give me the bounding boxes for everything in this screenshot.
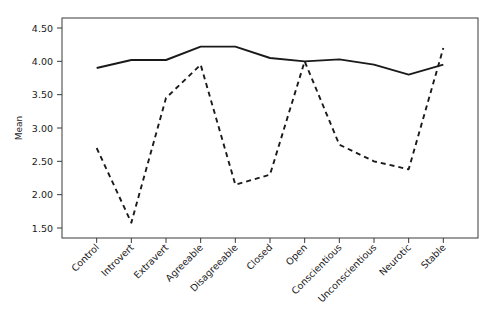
chart-container: 1.502.002.503.003.504.004.50 ControlIntr… xyxy=(0,0,497,315)
x-category-label: Neurotic xyxy=(377,242,413,278)
y-tick-label: 4.00 xyxy=(32,56,53,67)
y-tick-label: 1.50 xyxy=(32,223,53,234)
x-category-label: Open xyxy=(283,242,309,268)
y-axis-ticks: 1.502.002.503.003.504.004.50 xyxy=(32,23,62,234)
y-tick-label: 3.00 xyxy=(32,123,53,134)
y-axis-title: Mean xyxy=(14,116,24,141)
x-category-label: Stable xyxy=(419,242,448,271)
y-tick-label: 3.50 xyxy=(32,89,53,100)
y-tick-label: 2.50 xyxy=(32,156,53,167)
y-tick-label: 2.00 xyxy=(32,189,53,200)
x-category-label: Closed xyxy=(244,242,274,272)
y-tick-label: 4.50 xyxy=(32,23,53,34)
x-category-label: Control xyxy=(69,242,101,274)
x-axis-labels: ControlIntrovertExtravertAgreeableDisagr… xyxy=(69,241,448,304)
plot-frame xyxy=(62,18,478,238)
line-chart: 1.502.002.503.003.504.004.50 ControlIntr… xyxy=(0,0,497,315)
x-category-label: Unconscientious xyxy=(316,242,379,305)
x-axis-ticks xyxy=(97,238,444,243)
